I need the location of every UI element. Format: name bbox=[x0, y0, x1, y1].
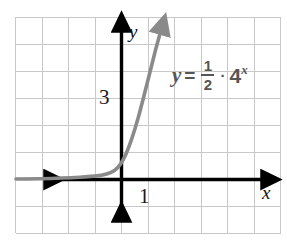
x-axis-label: x bbox=[262, 183, 270, 202]
graph-canvas bbox=[0, 0, 287, 245]
y-axis-label: y bbox=[129, 22, 137, 41]
equation-annotation: y = 1 2 · 4 x bbox=[172, 58, 248, 92]
fraction-numerator: 1 bbox=[204, 58, 212, 74]
equation-base: 4 bbox=[229, 65, 241, 86]
equation-equals-sign: = bbox=[184, 66, 195, 85]
equation-multiplication-dot: · bbox=[220, 68, 225, 83]
exponential-graph-figure: y x 3 1 y = 1 2 · 4 x bbox=[0, 0, 287, 245]
fraction-denominator: 2 bbox=[204, 76, 212, 92]
equation-fraction: 1 2 bbox=[201, 58, 214, 92]
exponential-curve bbox=[16, 30, 161, 179]
x-axis-tick-label-1: 1 bbox=[139, 186, 150, 207]
y-axis-tick-label-3: 3 bbox=[99, 87, 110, 108]
equation-lhs: y bbox=[172, 65, 181, 86]
equation-exponent: x bbox=[241, 63, 248, 76]
